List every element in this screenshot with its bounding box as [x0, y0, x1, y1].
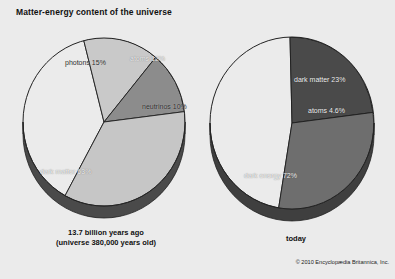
pie-svg-today: [200, 22, 392, 222]
caption-today-line1: today: [286, 234, 306, 243]
caption-today: today: [200, 234, 392, 244]
slice-dark-matter: [290, 37, 373, 123]
caption-past-line2: (universe 380,000 years old): [8, 238, 204, 248]
pie-chart-today: dark matter 23% atoms 4.6% dark energy 7…: [200, 22, 392, 222]
page-title: Matter-energy content of the universe: [16, 7, 172, 17]
figure-container: Matter-energy content of the universe: [0, 0, 395, 279]
copyright-notice: © 2010 Encyclopædia Britannica, Inc.: [296, 259, 389, 265]
caption-past: 13.7 billion years ago (universe 380,000…: [8, 228, 204, 247]
caption-past-line1: 13.7 billion years ago: [68, 228, 144, 237]
pie-svg-past: [8, 22, 204, 222]
pie-chart-past: photons 15% atoms 12% neutrinos 10% dark…: [8, 22, 204, 222]
slice-atoms: [279, 112, 374, 210]
slice-neutrinos: [65, 112, 185, 207]
